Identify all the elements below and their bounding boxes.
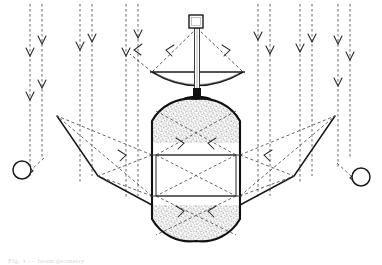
- marker-circle-left: [13, 161, 31, 179]
- feed-horn: [189, 15, 203, 28]
- support-mast: [195, 28, 200, 90]
- figure-root: Fig. 1 — beam geometry: [0, 0, 382, 265]
- diagram-canvas: [0, 0, 382, 265]
- figure-caption: Fig. 1 — beam geometry: [8, 257, 85, 265]
- marker-circle-right: [352, 168, 370, 186]
